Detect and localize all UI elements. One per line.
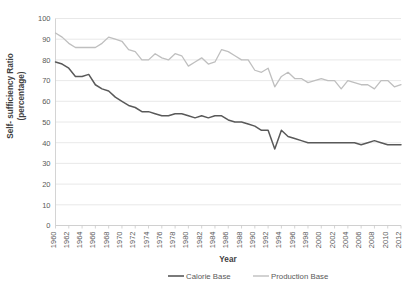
- x-tick-label-1992: 1992: [261, 232, 270, 249]
- x-tick-label-2000: 2000: [314, 232, 323, 249]
- x-tick-label-1978: 1978: [168, 232, 177, 249]
- legend-label-1: Production Base: [271, 272, 328, 281]
- x-tick-label-1996: 1996: [288, 232, 297, 249]
- x-tick-label-1966: 1966: [88, 232, 97, 249]
- y-tick-label-10: 10: [42, 201, 50, 210]
- x-tick-label-1998: 1998: [301, 232, 310, 249]
- x-tick-label-1976: 1976: [155, 232, 164, 249]
- legend-label-0: Calorie Base: [186, 272, 231, 281]
- y-tick-label-0: 0: [46, 221, 50, 230]
- x-tick-marks: [56, 226, 402, 229]
- y-tick-label-90: 90: [42, 35, 50, 44]
- x-tick-label-2006: 2006: [354, 232, 363, 249]
- y-axis-title-line1: Self- sufficiency Ratio: [6, 53, 15, 139]
- x-tick-label-2002: 2002: [328, 232, 337, 249]
- x-tick-label-2010: 2010: [381, 232, 390, 249]
- x-tick-label-1994: 1994: [274, 232, 283, 249]
- x-tick-label-1962: 1962: [62, 232, 71, 249]
- y-tick-label-70: 70: [42, 76, 50, 85]
- x-tick-label-1984: 1984: [208, 232, 217, 249]
- x-tick-label-1982: 1982: [195, 232, 204, 249]
- y-tick-label-20: 20: [42, 180, 50, 189]
- y-tick-labels: 0102030405060708090100: [38, 14, 51, 230]
- x-tick-label-1980: 1980: [181, 232, 190, 249]
- chart-container: 0102030405060708090100 19601962196419661…: [0, 0, 417, 294]
- y-tick-label-40: 40: [42, 139, 50, 148]
- x-tick-labels: 1960196219641966196819701972197419761978…: [49, 231, 404, 248]
- gridlines: [56, 19, 402, 226]
- chart-legend: Calorie BaseProduction Base: [168, 272, 328, 281]
- x-tick-label-1960: 1960: [49, 232, 58, 249]
- x-tick-label-1974: 1974: [142, 232, 151, 249]
- self-sufficiency-ratio-line-chart: 0102030405060708090100 19601962196419661…: [0, 0, 417, 294]
- x-tick-label-1964: 1964: [75, 232, 84, 249]
- y-axis-title-line2: (percentage): [17, 71, 26, 120]
- y-tick-label-80: 80: [42, 56, 50, 65]
- x-tick-label-2012: 2012: [394, 232, 403, 249]
- y-tick-label-60: 60: [42, 97, 50, 106]
- series-line-calorie-base: [56, 62, 402, 149]
- x-tick-label-1988: 1988: [235, 231, 244, 248]
- data-series-group: [56, 33, 402, 149]
- x-tick-label-2004: 2004: [341, 232, 350, 249]
- x-tick-label-1972: 1972: [128, 232, 137, 249]
- x-axis-title: Year: [219, 255, 237, 264]
- x-tick-label-1970: 1970: [115, 232, 124, 249]
- x-tick-label-1990: 1990: [248, 231, 257, 248]
- y-tick-label-50: 50: [42, 118, 50, 127]
- x-tick-label-2008: 2008: [367, 232, 376, 249]
- y-tick-label-30: 30: [42, 159, 50, 168]
- y-tick-label-100: 100: [38, 14, 51, 23]
- x-tick-label-1968: 1968: [102, 232, 111, 249]
- x-tick-label-1986: 1986: [221, 232, 230, 249]
